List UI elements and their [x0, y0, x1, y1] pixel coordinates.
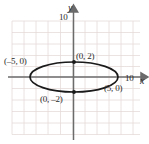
point-label-bottom-vertex: (0, –2): [40, 95, 63, 104]
y-axis-label: y: [68, 3, 72, 13]
x-axis-tick-label-10: 10: [125, 74, 134, 83]
y-axis-tick-label-10: 10: [59, 13, 68, 22]
coordinate-plane-svg: [0, 0, 149, 144]
point-label-left-vertex: (–5, 0): [4, 57, 27, 66]
vertex-bottom-dot: [72, 90, 76, 94]
x-axis-label: x: [140, 76, 144, 86]
ellipse-graph-figure: y 10 x 10 (–5, 0) (5, 0) (0, 2) (0, –2): [0, 0, 149, 144]
point-label-top-vertex: (0, 2): [76, 52, 94, 61]
point-label-right-vertex: (5, 0): [104, 84, 122, 93]
